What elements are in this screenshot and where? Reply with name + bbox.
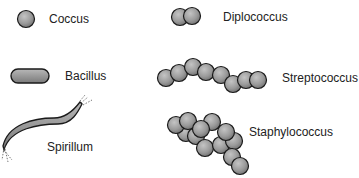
bacillus-icon	[11, 69, 49, 83]
staphylococcus-label: Staphylococcus	[249, 125, 333, 139]
diplococcus-icon	[172, 8, 201, 26]
staphylococcus-icon	[168, 113, 249, 175]
streptococcus-label: Streptococcus	[282, 71, 358, 85]
diplococcus-label: Diplococcus	[223, 10, 288, 24]
coccus-label: Coccus	[49, 12, 89, 26]
coccus-icon	[18, 11, 35, 28]
streptococcus-icon	[158, 59, 267, 93]
bacillus-label: Bacillus	[65, 69, 106, 83]
spirillum-label: Spirillum	[47, 140, 93, 154]
